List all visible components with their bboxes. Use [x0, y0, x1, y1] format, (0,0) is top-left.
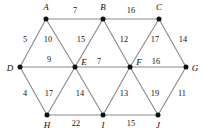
graph-node-d	[18, 65, 23, 70]
graph-node-e	[73, 65, 78, 70]
edge-weight-i-j: 15	[127, 119, 135, 128]
weighted-graph-figure: 716510151217149716417141319112215 ABCDEF…	[0, 0, 202, 133]
edge-weight-e-i: 14	[76, 89, 85, 98]
graph-node-b	[101, 17, 106, 22]
edge-weight-b-f: 12	[120, 35, 128, 44]
edge-weight-e-b: 15	[77, 35, 85, 44]
edge-weight-a-e: 10	[44, 35, 52, 44]
edge-weight-d-h: 4	[23, 89, 28, 98]
graph-node-j	[156, 113, 161, 118]
edge-weight-e-f: 7	[97, 57, 101, 66]
edge-weight-h-e: 17	[45, 89, 53, 98]
graph-node-label-i: I	[101, 120, 106, 130]
edge-weight-f-c: 17	[151, 35, 159, 44]
graph-node-g	[184, 65, 189, 70]
graph-node-c	[157, 17, 162, 22]
graph-node-label-c: C	[156, 2, 163, 12]
edge-weight-j-g: 11	[178, 89, 186, 98]
graph-node-label-j: J	[156, 120, 161, 130]
graph-node-label-h: H	[43, 120, 51, 130]
graph-node-label-e: E	[80, 57, 87, 67]
edge-weight-f-j: 19	[151, 89, 159, 98]
graph-node-label-d: D	[6, 63, 14, 73]
graph-node-label-f: F	[135, 57, 142, 67]
graph-node-label-b: B	[100, 2, 106, 12]
graph-node-label-g: G	[192, 63, 199, 73]
graph-node-a	[44, 17, 49, 22]
graph-node-i	[101, 113, 106, 118]
edge-weight-h-i: 22	[72, 119, 80, 128]
edge-weight-c-g: 14	[179, 35, 188, 44]
edge-weight-d-a: 5	[23, 35, 27, 44]
edge-weight-b-c: 16	[127, 6, 135, 15]
graph-node-f	[128, 65, 133, 70]
graph-node-label-a: A	[42, 2, 49, 12]
edge-weight-a-b: 7	[73, 6, 77, 15]
edge-weight-f-g: 16	[152, 57, 160, 66]
graph-node-h	[45, 113, 50, 118]
edge-weight-i-f: 13	[120, 89, 128, 98]
edge-weight-d-e: 9	[47, 55, 51, 64]
graph-canvas: 716510151217149716417141319112215 ABCDEF…	[0, 0, 202, 133]
graph-edges-layer	[20, 19, 186, 115]
